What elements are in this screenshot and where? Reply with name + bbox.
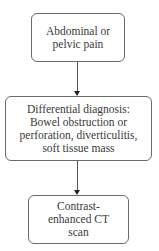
node-label-line: perforation, diverticulitis, bbox=[20, 129, 138, 142]
node-label-line: scan bbox=[48, 226, 109, 239]
node-label-line: Differential diagnosis: bbox=[20, 103, 138, 116]
node-label: Abdominal or pelvic pain bbox=[46, 25, 110, 51]
node-label: Contrast- enhanced CT scan bbox=[48, 200, 109, 239]
node-label-line: Bowel obstruction or bbox=[20, 116, 138, 129]
connector-line bbox=[77, 161, 78, 191]
node-label-line: pelvic pain bbox=[46, 38, 110, 51]
connector-line bbox=[77, 62, 78, 92]
node-label-line: enhanced CT bbox=[48, 213, 109, 226]
node-label-line: soft tissue mass bbox=[20, 142, 138, 155]
node-label-line: Contrast- bbox=[48, 200, 109, 213]
node-differential-diagnosis: Differential diagnosis: Bowel obstructio… bbox=[5, 96, 152, 161]
node-label: Differential diagnosis: Bowel obstructio… bbox=[20, 103, 138, 155]
node-contrast-ct-scan: Contrast- enhanced CT scan bbox=[28, 195, 129, 244]
node-abdominal-pelvic-pain: Abdominal or pelvic pain bbox=[31, 13, 125, 62]
node-label-line: Abdominal or bbox=[46, 25, 110, 38]
